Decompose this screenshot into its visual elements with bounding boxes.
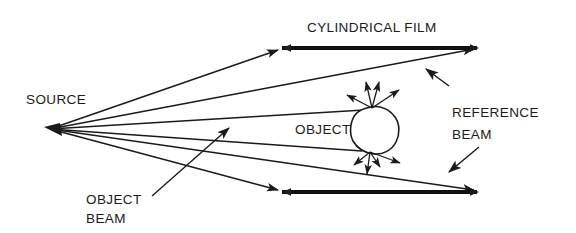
- ray-to-film-top-right: [50, 49, 474, 129]
- scatter-arrows-lower: [354, 152, 400, 174]
- label-object-beam-line1: OBJECT: [86, 192, 142, 207]
- scatter-arrow-upper-1: [347, 95, 372, 108]
- label-reference-beam-line1: REFERENCE: [452, 105, 539, 120]
- scatter-arrows-upper: [347, 82, 399, 108]
- scatter-arrow-lower-2: [367, 152, 370, 174]
- scatter-arrow-upper-2: [366, 82, 372, 108]
- diagram-canvas: SOURCE CYLINDRICAL FILM OBJECT REFERENCE…: [0, 0, 576, 233]
- label-reference-beam-line2: BEAM: [452, 127, 492, 142]
- beam-ray-group: [50, 49, 474, 190]
- ray-to-film-bottom-left: [50, 129, 278, 190]
- label-source: SOURCE: [26, 92, 86, 107]
- scatter-arrow-lower-1: [354, 152, 370, 165]
- scatter-arrow-lower-4: [370, 152, 400, 163]
- film-top-left-arrowhead: [282, 44, 291, 52]
- label-object: OBJECT: [295, 122, 351, 137]
- label-object-beam-line2: BEAM: [86, 211, 126, 226]
- film-bottom-left-arrowhead: [282, 188, 291, 196]
- film-bottom-right-arrowhead: [470, 188, 479, 196]
- label-cylindrical-film: CYLINDRICAL FILM: [307, 20, 437, 35]
- object-blob: [351, 107, 399, 155]
- reference-beam-arrow-upper: [426, 69, 449, 86]
- film-top-right-arrowhead: [470, 44, 479, 52]
- source-point: [44, 123, 62, 136]
- ray-to-film-bottom-right: [50, 129, 474, 190]
- reference-beam-arrow-lower: [449, 147, 479, 172]
- holography-diagram: SOURCE CYLINDRICAL FILM OBJECT REFERENCE…: [0, 0, 576, 233]
